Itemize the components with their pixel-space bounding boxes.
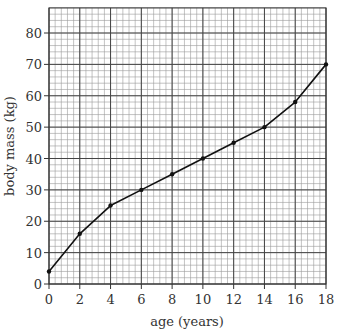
x-tick-label: 16	[287, 292, 304, 307]
x-axis-label: age (years)	[150, 314, 224, 329]
x-tick-label: 6	[137, 292, 145, 307]
minor-grid	[49, 8, 326, 284]
x-tick-label: 0	[45, 292, 53, 307]
y-axis-ticks: 01020304050607080	[25, 26, 49, 292]
x-tick-label: 4	[106, 292, 114, 307]
y-tick-label: 60	[25, 89, 42, 104]
x-tick-label: 2	[76, 292, 84, 307]
data-point	[262, 125, 266, 129]
data-point	[108, 203, 112, 207]
data-point	[139, 188, 143, 192]
x-tick-label: 18	[318, 292, 335, 307]
x-axis-ticks: 024681012141618	[45, 284, 334, 307]
y-axis-label: body mass (kg)	[2, 96, 17, 196]
data-point	[201, 156, 205, 160]
y-tick-label: 0	[34, 277, 42, 292]
data-point	[170, 172, 174, 176]
y-tick-label: 20	[25, 214, 42, 229]
y-tick-label: 80	[25, 26, 42, 41]
x-tick-label: 12	[225, 292, 242, 307]
y-tick-label: 30	[25, 183, 42, 198]
y-tick-label: 70	[25, 57, 42, 72]
x-tick-label: 10	[195, 292, 212, 307]
y-tick-label: 50	[25, 120, 42, 135]
line-chart: 024681012141618 01020304050607080 age (y…	[0, 0, 346, 336]
data-point	[47, 269, 51, 273]
y-tick-label: 40	[25, 152, 42, 167]
data-series	[47, 62, 328, 273]
x-tick-label: 8	[168, 292, 176, 307]
y-tick-label: 10	[25, 246, 42, 261]
data-point	[231, 141, 235, 145]
data-point	[78, 232, 82, 236]
data-point	[324, 62, 328, 66]
data-point	[293, 100, 297, 104]
x-tick-label: 14	[256, 292, 273, 307]
